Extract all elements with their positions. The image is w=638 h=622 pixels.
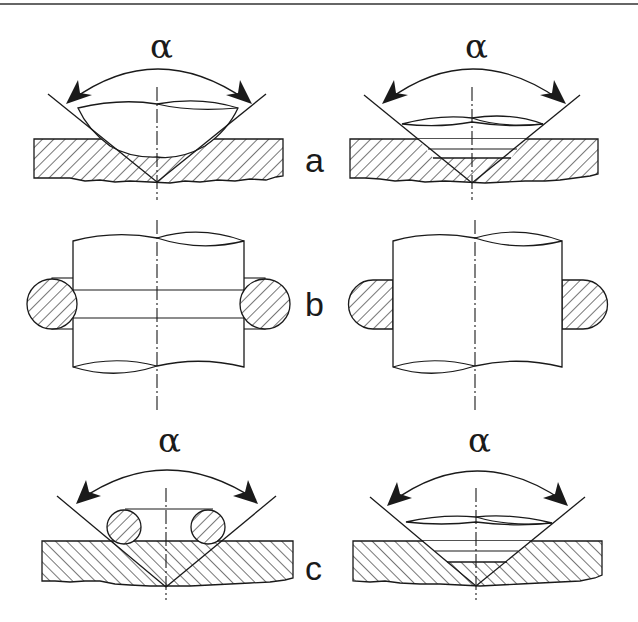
angle-arc [80,470,256,500]
row-label-a: a [305,141,324,179]
row-a-left: α [34,26,283,200]
row-b-left [27,220,290,410]
shaft-b-right [393,235,562,374]
angle-label: α [158,420,181,460]
oring-section-left [349,280,394,329]
lens-c-right [406,516,552,525]
shaft-b-left [73,235,244,374]
angle-arc [388,69,560,100]
row-b-right [349,220,608,410]
oring-section-right [562,280,608,329]
arrow-head-right [233,480,258,504]
angle-arc [72,69,246,100]
row-a-right: α [350,26,598,200]
plate-c-left [42,541,293,586]
arrow-head-left [382,80,408,104]
diagram-canvas: α α a b [0,0,638,622]
oring-section-left [27,279,77,329]
angle-label: α [468,420,491,460]
shaft-break-top [475,232,562,241]
ring-section-right [191,510,225,544]
arrow-head-left [387,482,412,506]
shaft-break-top [157,232,244,241]
arrow-head-left [66,80,92,104]
row-label-c: c [305,549,322,587]
angle-label: α [465,26,488,66]
arrow-head-right [540,80,566,104]
ring-section-left [107,510,141,544]
oring-section-right [240,279,290,329]
row-c-right: α [353,420,602,600]
arrow-head-right [226,80,252,104]
row-label-b: b [305,285,324,323]
row-c-left: α [42,420,293,600]
arrow-head-left [76,480,101,504]
arrow-head-right [543,482,568,506]
angle-arc [392,471,565,502]
angle-label: α [150,26,173,66]
